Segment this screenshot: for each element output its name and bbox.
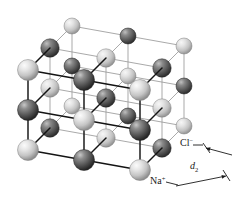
lattice-canvas: Cl− Na+ d2 xyxy=(0,0,236,219)
chloride-ion-sphere xyxy=(18,100,39,121)
sodium-ion-sphere xyxy=(176,118,192,134)
sodium-ion-sphere xyxy=(176,38,192,54)
sodium-ion-sphere xyxy=(18,140,39,161)
nacl-lattice-figure: Cl− Na+ d2 xyxy=(0,0,236,219)
sodium-ion-sphere xyxy=(130,160,151,181)
chloride-ion-sphere xyxy=(176,78,192,94)
sodium-ion-sphere xyxy=(18,60,39,81)
chloride-ion-sphere xyxy=(130,120,151,141)
sodium-ion-sphere xyxy=(130,80,151,101)
sodium-ion-sphere xyxy=(74,110,95,131)
chloride-ion-sphere xyxy=(74,150,95,171)
chloride-ion-sphere xyxy=(74,70,95,91)
sodium-ion-sphere xyxy=(64,18,80,34)
chloride-ion-sphere xyxy=(120,28,136,44)
